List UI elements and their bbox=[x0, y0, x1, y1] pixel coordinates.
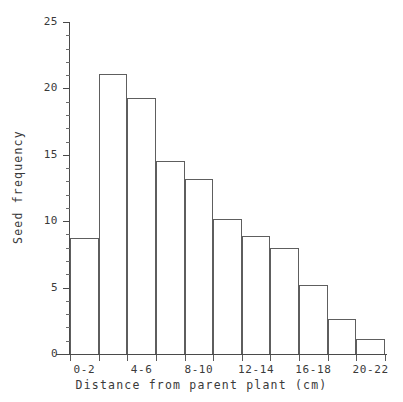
y-axis-tick bbox=[63, 155, 69, 156]
y-axis-tick-label: 25 bbox=[18, 16, 58, 27]
y-axis-tick bbox=[63, 88, 69, 89]
x-axis-tick bbox=[356, 355, 357, 361]
x-axis-tick bbox=[270, 355, 271, 361]
histogram-bar bbox=[127, 98, 156, 354]
x-axis-title: Distance from parent plant (cm) bbox=[0, 378, 403, 392]
x-axis-tick bbox=[185, 355, 186, 361]
histogram-bar bbox=[299, 285, 328, 354]
histogram-bar bbox=[99, 74, 128, 354]
histogram-bar bbox=[242, 236, 271, 354]
x-axis-tick-label: 20-22 bbox=[336, 363, 403, 376]
histogram-bar bbox=[70, 238, 99, 354]
histogram-bar bbox=[328, 319, 357, 354]
y-axis-tick bbox=[63, 221, 69, 222]
histogram-chart: 0510152025 0-24-68-1012-1416-1820-22 See… bbox=[0, 0, 403, 402]
y-axis-title: Seed frequency bbox=[11, 107, 25, 267]
histogram-bar bbox=[156, 161, 185, 354]
y-axis-tick-label: 5 bbox=[18, 282, 58, 293]
x-axis-tick bbox=[127, 355, 128, 361]
histogram-bar bbox=[213, 219, 242, 354]
x-axis-tick bbox=[70, 355, 71, 361]
y-axis-tick bbox=[63, 288, 69, 289]
x-axis-line bbox=[56, 354, 387, 355]
x-axis-tick bbox=[385, 355, 386, 361]
x-axis-tick bbox=[328, 355, 329, 361]
y-axis-tick bbox=[63, 22, 69, 23]
x-axis-tick bbox=[213, 355, 214, 361]
y-axis-tick-label: 0 bbox=[18, 348, 58, 359]
bar-group bbox=[70, 22, 385, 354]
x-axis-tick bbox=[242, 355, 243, 361]
histogram-bar bbox=[270, 248, 299, 354]
x-axis-tick bbox=[156, 355, 157, 361]
histogram-bar bbox=[356, 339, 385, 354]
histogram-bar bbox=[185, 179, 214, 354]
y-axis-tick bbox=[63, 354, 69, 355]
y-axis-tick-label: 20 bbox=[18, 82, 58, 93]
x-axis-tick bbox=[299, 355, 300, 361]
x-axis-tick bbox=[99, 355, 100, 361]
